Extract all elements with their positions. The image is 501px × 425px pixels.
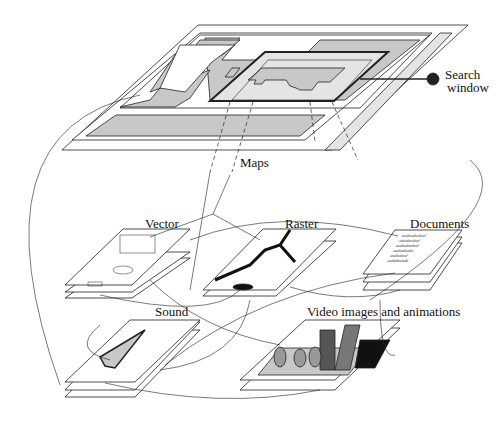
raster-layer [203, 229, 336, 296]
vector-label: Vector [145, 217, 179, 230]
search-window-label-line2: window [447, 81, 489, 94]
sound-label: Sound [155, 305, 188, 318]
doc-line: asdadasdsda [386, 258, 412, 263]
vector-layer [65, 229, 190, 298]
maps-layer [62, 25, 468, 150]
video-label: Video images and animations [307, 305, 460, 318]
raster-label: Raster [285, 217, 318, 230]
video-layer [240, 320, 400, 390]
maps-label: Maps [240, 156, 269, 169]
sound-layer [65, 320, 200, 397]
search-window-marker [427, 73, 439, 85]
diagram-canvas [0, 0, 501, 425]
documents-label: Documents [410, 217, 469, 230]
